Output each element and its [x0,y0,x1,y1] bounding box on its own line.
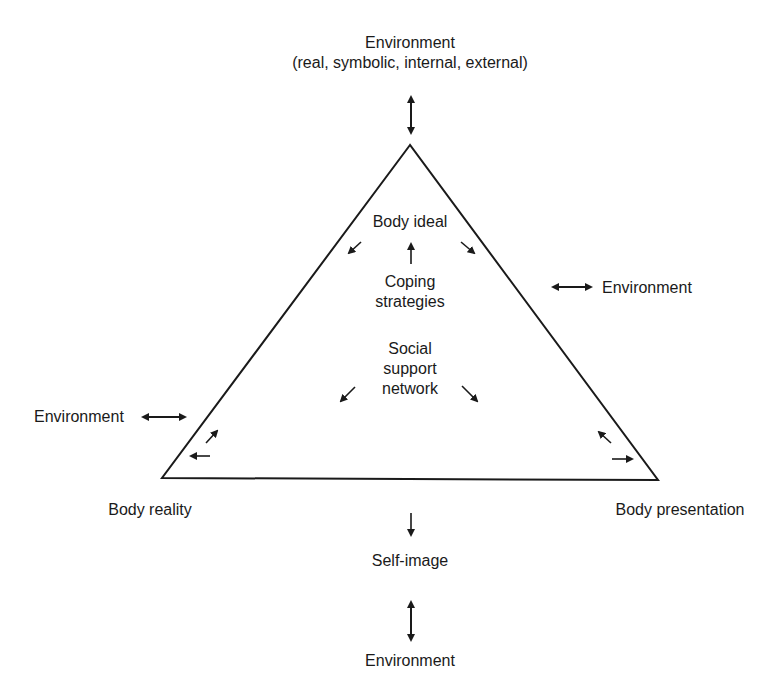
social-support-label-line1: Social [340,339,480,359]
body-ideal-left-arrow [349,242,361,253]
body-presentation-label: Body presentation [580,500,780,520]
right-environment-label: Environment [602,278,692,298]
self-image-label: Self-image [340,551,480,571]
coping-strategies-label-line1: Coping [340,272,480,292]
top-environment-label: Environment [260,33,560,53]
body-ideal-right-arrow [461,242,474,253]
top-environment-subtitle: (real, symbolic, internal, external) [220,53,600,73]
social-support-label-line3: network [340,379,480,399]
body-presentation-up-arrow [599,432,611,443]
body-reality-up-arrow [206,431,217,443]
body-ideal-label: Body ideal [340,212,480,232]
body-reality-label: Body reality [70,500,230,520]
left-environment-label: Environment [34,407,124,427]
coping-strategies-label-line2: strategies [340,292,480,312]
social-support-label-line2: support [340,359,480,379]
body-image-triangle [162,145,658,480]
bottom-environment-label: Environment [330,651,490,671]
